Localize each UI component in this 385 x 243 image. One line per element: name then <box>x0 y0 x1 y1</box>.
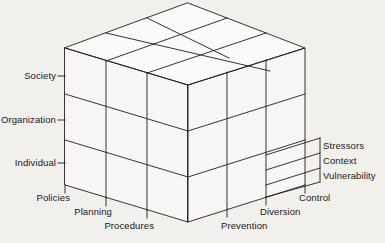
axis-label-organization: Organization <box>1 115 56 125</box>
axis-label-prevention: Prevention <box>221 221 267 231</box>
axis-label-policies: Policies <box>36 193 70 203</box>
axis-label-vulnerability: Vulnerability <box>323 171 376 181</box>
axis-label-control: Control <box>299 193 330 203</box>
axis-label-individual: Individual <box>15 158 56 168</box>
cube-svg <box>0 0 385 243</box>
axis-label-diversion: Diversion <box>260 207 301 217</box>
cube-diagram-figure: Society Organization Individual Policies… <box>0 0 385 243</box>
axis-label-procedures: Procedures <box>104 221 154 231</box>
axis-label-stressors: Stressors <box>323 141 364 151</box>
axis-label-planning: Planning <box>74 207 112 217</box>
axis-label-society: Society <box>24 71 56 81</box>
left-tick-leaders <box>58 76 65 163</box>
axis-label-context: Context <box>323 156 356 166</box>
